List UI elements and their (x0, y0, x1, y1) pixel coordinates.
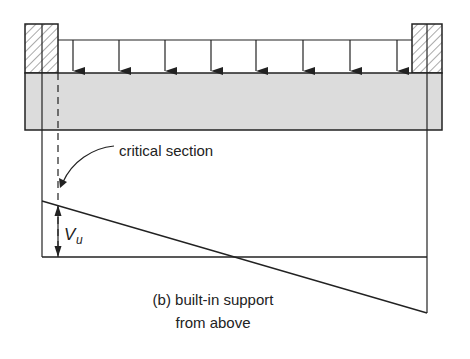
distributed-load (58, 40, 412, 71)
beam-shear-diagram: critical section V u (b) built-in suppor… (0, 0, 470, 359)
vu-subscript: u (76, 233, 83, 247)
vu-dimension-arrow (55, 205, 62, 257)
critical-section-label: critical section (119, 142, 213, 159)
critical-section-leader (59, 146, 114, 188)
caption-line-2: from above (175, 314, 250, 331)
load-arrows (73, 40, 397, 71)
beam (25, 73, 442, 130)
caption-line-1: (b) built-in support (153, 291, 275, 308)
